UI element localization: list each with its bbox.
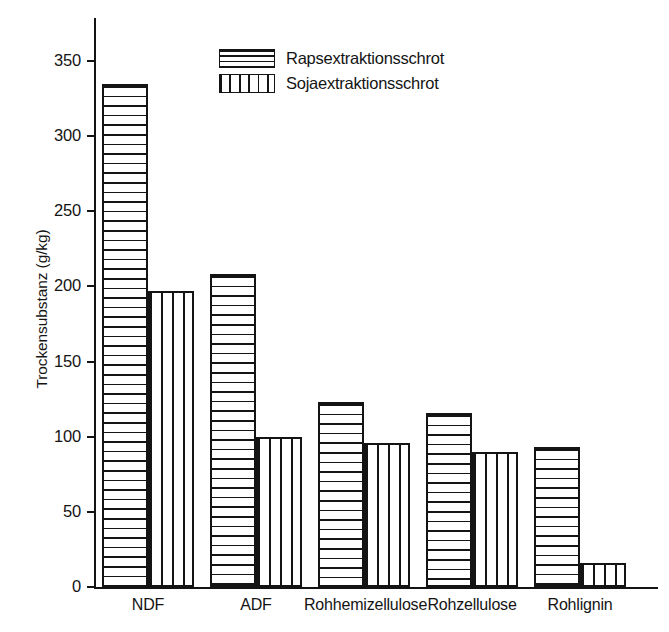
bar-group (210, 18, 302, 587)
legend-item: Sojaextraktionsschrot (219, 72, 444, 95)
bar-chart: 050100150200250300350 Trockensubstanz (g… (0, 0, 669, 632)
chart-legend: RapsextraktionsschrotSojaextraktionsschr… (219, 47, 444, 97)
bar (148, 291, 194, 587)
y-axis-tick-label: 50 (37, 503, 81, 520)
bar-group (426, 18, 518, 587)
legend-item: Rapsextraktionsschrot (219, 47, 444, 70)
bar (364, 443, 410, 587)
bar (318, 402, 364, 587)
x-axis-category-label: ADF (196, 596, 316, 614)
y-axis-title: Trockensubstanz (g/kg) (33, 179, 51, 439)
bar (256, 437, 302, 587)
y-axis-tick-label: 300 (37, 127, 81, 144)
bar (534, 447, 580, 587)
bar (472, 452, 518, 587)
x-axis-category-label: Rohlignin (520, 596, 640, 614)
bar (580, 563, 626, 587)
plot-area (94, 18, 658, 587)
legend-label: Sojaextraktionsschrot (286, 74, 439, 93)
x-axis-category-label: Rohzellulose (412, 596, 532, 614)
x-axis-line (94, 587, 658, 589)
bar (210, 274, 256, 587)
bar-group (534, 18, 626, 587)
bar (426, 413, 472, 587)
y-axis-tick-label: 350 (37, 52, 81, 69)
x-axis-category-label: Rohhemizellulose (304, 596, 424, 614)
legend-swatch (219, 74, 275, 93)
bar-group (102, 18, 194, 587)
legend-swatch (219, 49, 275, 68)
bar (102, 84, 148, 588)
y-axis-tick-label: 0 (37, 578, 81, 595)
bar-group (318, 18, 410, 587)
legend-label: Rapsextraktionsschrot (286, 49, 444, 68)
x-axis-category-label: NDF (88, 596, 208, 614)
